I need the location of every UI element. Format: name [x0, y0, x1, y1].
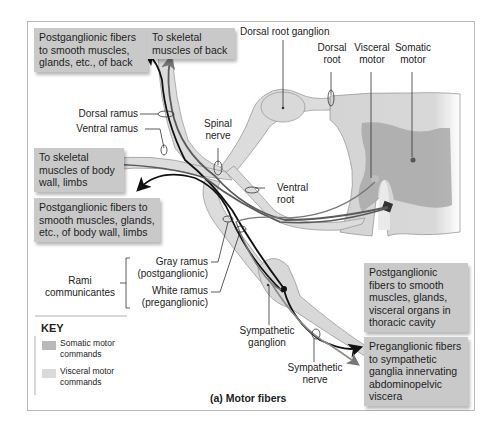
gray-ramus-subtext: (postganglionic)	[137, 268, 208, 279]
label-dorsal-root: Dorsal root	[314, 42, 350, 66]
figure-caption: (a) Motor fibers	[210, 392, 286, 404]
white-ramus-subtext: (preganglionic)	[142, 297, 208, 308]
label-dorsal-ramus: Dorsal ramus	[60, 108, 138, 120]
label-rami-communicantes: Rami communicantes	[40, 275, 120, 299]
visceral-motor-cell-body	[371, 175, 379, 183]
dorsal-root	[220, 89, 330, 176]
label-gray-ramus: Gray ramus(postganglionic)	[120, 256, 208, 280]
white-ramus-text: White ramus	[152, 285, 208, 296]
box-postganglionic-thoracic: Postganglionic fibers to smooth muscles,…	[364, 263, 468, 332]
key-label-visceral: Visceral motor commands	[60, 366, 130, 388]
gray-ramus-text: Gray ramus	[156, 256, 208, 267]
label-sympathetic-ganglion: Sympathetic ganglion	[232, 325, 302, 349]
box-skeletal-body-wall: To skeletal muscles of body wall, limbs	[34, 148, 124, 192]
label-dorsal-root-ganglion: Dorsal root ganglion	[240, 26, 330, 38]
key-label-somatic: Somatic motor commands	[60, 338, 130, 360]
key-title: KEY	[41, 322, 64, 334]
label-visceral-motor: Visceral motor	[353, 42, 391, 66]
somatic-motor-neuron-dot	[411, 158, 416, 163]
label-sympathetic-nerve: Sympathetic nerve	[280, 362, 350, 386]
box-postganglionic-body-wall: Postganglionic fibers to smooth muscles,…	[34, 198, 160, 242]
key-swatch-somatic	[42, 341, 56, 350]
key-swatch-visceral	[42, 369, 56, 378]
box-skeletal-back: To skeletal muscles of back	[147, 28, 235, 59]
box-postganglionic-back: Postganglionic fibers to smooth muscles,…	[34, 28, 148, 72]
label-ventral-root: Ventral root	[277, 182, 311, 206]
grey-matter	[358, 122, 452, 212]
label-ventral-ramus: Ventral ramus	[60, 123, 138, 135]
box-preganglionic-abdominopelvic: Preganglionic fibers to sympathetic gang…	[364, 337, 468, 406]
label-white-ramus: White ramus(preganglionic)	[120, 285, 208, 309]
label-spinal-nerve: Spinal nerve	[200, 118, 236, 142]
label-somatic-motor: Somatic motor	[393, 42, 433, 66]
